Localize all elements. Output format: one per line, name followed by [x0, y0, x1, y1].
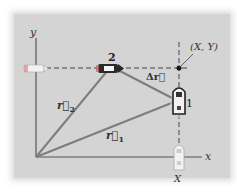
y-axis-label: y	[30, 27, 36, 38]
r2-label: r⃗2	[57, 100, 75, 113]
vector-delta-r	[116, 69, 174, 99]
point-2-label: 2	[108, 52, 116, 63]
boat-x-icon	[174, 145, 184, 170]
x-mark-label: X	[174, 174, 181, 184]
delta-r-label: Δr⃗	[146, 72, 165, 82]
x-axis-label: x	[205, 151, 211, 162]
intersection-label: (X, Y)	[190, 42, 218, 52]
point-1-label: 1	[186, 98, 193, 109]
r1-label: r⃗1	[106, 130, 124, 143]
r1-subscript: 1	[118, 134, 124, 144]
boat-start-icon	[24, 65, 48, 72]
r1-symbol: r⃗	[106, 129, 118, 142]
r2-symbol: r⃗	[57, 99, 69, 112]
leader-line	[179, 54, 193, 68]
r2-subscript: 2	[69, 104, 75, 114]
